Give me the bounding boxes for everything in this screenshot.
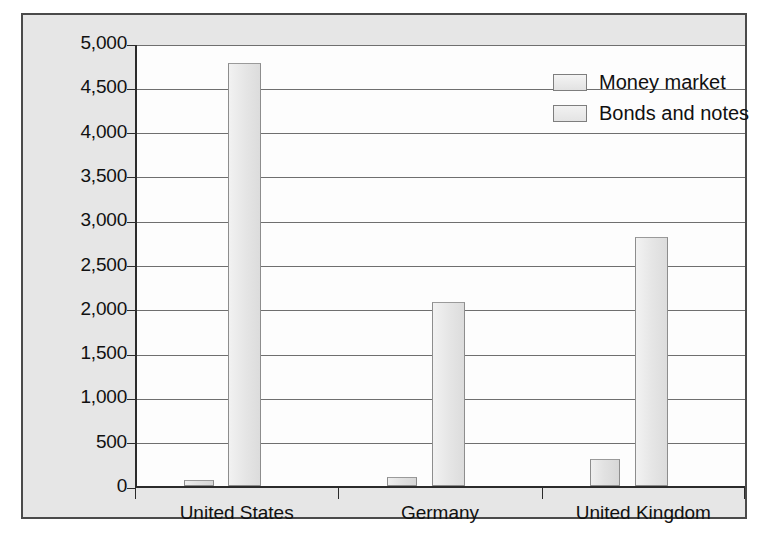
y-axis-tick-label: 3,000 (80, 209, 127, 231)
legend-item[interactable]: Bonds and notes (553, 98, 749, 129)
y-axis-tick-label: 0 (117, 475, 127, 497)
y-axis-tick-label: 5,000 (80, 32, 127, 54)
bar[interactable] (228, 63, 261, 487)
x-axis-category-label: Germany (338, 502, 541, 524)
y-axis-tick (127, 488, 135, 489)
y-axis-tick (127, 45, 135, 46)
x-axis-tick (135, 488, 136, 499)
legend-item-label: Money market (599, 71, 726, 94)
y-axis-tick (127, 399, 135, 400)
y-axis-tick-label: 2,000 (80, 298, 127, 320)
x-axis-category-label: United Kingdom (542, 502, 745, 524)
y-axis-tick-label: 1,000 (80, 386, 127, 408)
y-axis-tick-label: 3,500 (80, 165, 127, 187)
x-axis-tick (542, 488, 543, 499)
y-axis-tick-label: 2,500 (80, 254, 127, 276)
bar[interactable] (590, 459, 620, 486)
x-axis-tick (338, 488, 339, 499)
x-axis-category-label: United States (135, 502, 338, 524)
y-axis-tick-label: 4,500 (80, 76, 127, 98)
y-axis-tick-label: 1,500 (80, 342, 127, 364)
y-axis-tick (127, 443, 135, 444)
legend-swatch-icon (553, 105, 587, 122)
legend-swatch-icon (553, 74, 587, 91)
y-axis-tick-label: 500 (96, 431, 127, 453)
bar[interactable] (432, 302, 465, 486)
y-axis-tick (127, 89, 135, 90)
bar-chart-figure: Calculating Returns on a Eurodollar Depo… (0, 0, 769, 535)
x-axis: United StatesGermanyUnited Kingdom (135, 488, 745, 533)
gridline (137, 45, 745, 46)
y-axis-tick (127, 177, 135, 178)
y-axis-tick (127, 266, 135, 267)
bar[interactable] (184, 480, 214, 486)
y-axis: 05001,0001,5002,0002,5003,0003,5004,0004… (53, 15, 127, 517)
bar[interactable] (635, 237, 668, 486)
y-axis-tick (127, 133, 135, 134)
legend-item-label: Bonds and notes (599, 102, 749, 125)
y-axis-tick (127, 310, 135, 311)
y-axis-tick-label: 4,000 (80, 121, 127, 143)
y-axis-tick (127, 355, 135, 356)
bar[interactable] (387, 477, 417, 486)
y-axis-tick (127, 222, 135, 223)
x-axis-tick (744, 488, 745, 499)
chart-legend: Money marketBonds and notes (545, 63, 755, 134)
chart-frame: 05001,0001,5002,0002,5003,0003,5004,0004… (21, 13, 747, 519)
legend-item[interactable]: Money market (553, 67, 749, 98)
